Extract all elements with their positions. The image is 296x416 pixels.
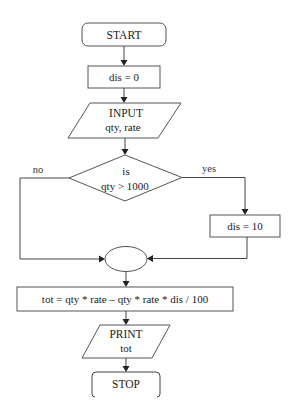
arrow-connector-to-compute — [123, 272, 130, 288]
stop-node: STOP — [92, 372, 160, 397]
init-label: dis = 0 — [109, 71, 140, 83]
compute-node: tot = qty * rate – qty * rate * dis / 10… — [17, 287, 233, 311]
output-label-line2: tot — [120, 342, 132, 354]
start-label: START — [107, 29, 142, 41]
branch-yes-label: yes — [202, 163, 216, 174]
arrow-output-to-stop — [123, 358, 130, 372]
set-discount-node: dis = 10 — [210, 215, 280, 237]
branch-no-label: no — [33, 164, 44, 175]
decision-label-line1: is — [122, 165, 129, 177]
output-label-line1: PRINT — [109, 328, 142, 340]
flowchart-diagram: START dis = 0 INPUT qty, rate is qty > 1… — [0, 0, 296, 416]
arrow-init-to-input — [121, 88, 128, 103]
input-label-line2: qty, rate — [105, 121, 140, 133]
set-discount-label: dis = 10 — [227, 220, 263, 232]
connector-node — [105, 247, 147, 272]
arrow-compute-to-output — [123, 311, 130, 325]
arrow-discount-to-connector — [147, 237, 247, 262]
input-label-line1: INPUT — [109, 107, 143, 119]
decision-label-line2: qty > 1000 — [101, 180, 149, 192]
arrow-input-to-decision — [122, 138, 129, 155]
output-node: PRINT tot — [82, 325, 170, 358]
stop-label: STOP — [112, 378, 140, 390]
start-node: START — [82, 23, 166, 46]
compute-label: tot = qty * rate – qty * rate * dis / 10… — [42, 293, 209, 305]
branch-yes-path: yes — [182, 163, 249, 215]
decision-node: is qty > 1000 — [69, 155, 182, 201]
input-node: INPUT qty, rate — [68, 103, 181, 138]
arrow-start-to-init — [121, 46, 128, 66]
init-process-node: dis = 0 — [88, 66, 160, 88]
